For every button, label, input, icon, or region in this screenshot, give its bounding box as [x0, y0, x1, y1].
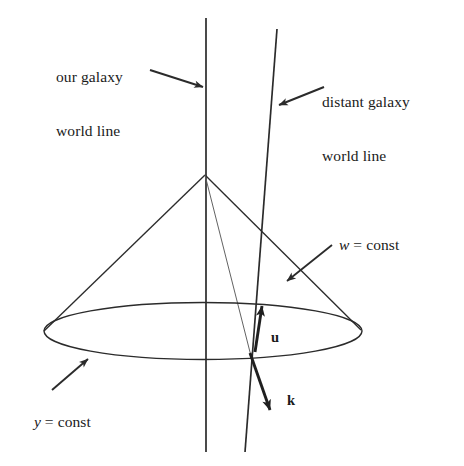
w-const-variable: w	[339, 236, 349, 253]
cone-base-ellipse	[44, 303, 362, 360]
distant-galaxy-pointer-arrow	[279, 87, 324, 105]
y-const-rest: = const	[41, 413, 91, 430]
y-const-variable: y	[34, 413, 41, 430]
vector-k-label: k	[287, 392, 295, 409]
w-const-label: w = const	[323, 218, 399, 272]
y-const-pointer-arrow	[52, 359, 88, 390]
vector-u-label: u	[271, 329, 279, 346]
distant-galaxy-label-line1: distant galaxy	[322, 93, 462, 111]
our-galaxy-label-line1: our galaxy	[56, 68, 186, 86]
y-const-label: y = const	[18, 395, 91, 449]
w-const-rest: = const	[349, 236, 399, 253]
light-cone-diagram: our galaxy world line distant galaxy wor…	[0, 0, 464, 466]
distant-galaxy-label: distant galaxy world line	[322, 57, 462, 201]
cone-edge-left	[44, 175, 205, 331]
our-galaxy-label: our galaxy world line	[56, 32, 186, 176]
distant-galaxy-label-line2: world line	[322, 147, 462, 165]
apex-ray-to-intersection	[205, 175, 252, 360]
our-galaxy-label-line2: world line	[56, 122, 186, 140]
vector-k-arrow	[250, 353, 270, 410]
